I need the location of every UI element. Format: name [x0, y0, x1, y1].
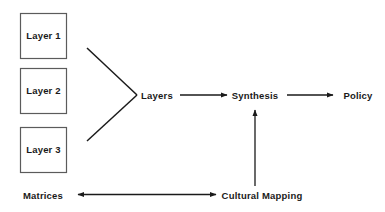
matrices-label: Matrices: [23, 190, 63, 201]
node-synthesis[interactable]: Synthesis: [232, 90, 279, 101]
diagram-root: Layer 1 Layer 2 Layer 3 Layers Synthesis: [0, 0, 385, 212]
layers-label: Layers: [141, 90, 173, 101]
diagram-canvas: Layer 1 Layer 2 Layer 3 Layers Synthesis: [0, 0, 385, 212]
chevron-lower-arm-line: [87, 95, 137, 141]
layer-1-label: Layer 1: [26, 30, 61, 41]
synthesis-label: Synthesis: [232, 90, 279, 101]
layer-2-label: Layer 2: [26, 85, 61, 96]
chevron-connector-group: [87, 48, 137, 141]
node-layer-3[interactable]: Layer 3: [21, 128, 67, 173]
cultural-mapping-label: Cultural Mapping: [222, 190, 303, 201]
node-cultural-mapping[interactable]: Cultural Mapping: [222, 190, 303, 201]
node-layer-2[interactable]: Layer 2: [21, 69, 67, 114]
node-policy[interactable]: Policy: [343, 90, 373, 101]
node-layer-1[interactable]: Layer 1: [21, 14, 67, 59]
layer-3-label: Layer 3: [26, 144, 61, 155]
policy-label: Policy: [343, 90, 373, 101]
node-matrices[interactable]: Matrices: [23, 190, 63, 201]
node-layers[interactable]: Layers: [141, 90, 173, 101]
layer-boxes-group: Layer 1 Layer 2 Layer 3: [21, 14, 67, 173]
chevron-upper-arm-line: [87, 48, 137, 95]
